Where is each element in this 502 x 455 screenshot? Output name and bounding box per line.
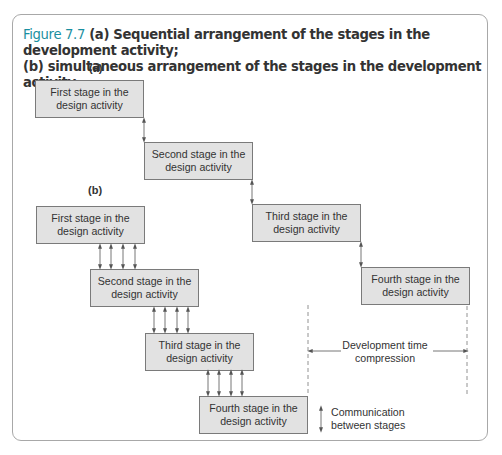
time-compression-label: Development timecompression [330,339,440,365]
legend-communication: Communicationbetween stages [331,406,405,432]
connector-arrows [0,0,502,455]
